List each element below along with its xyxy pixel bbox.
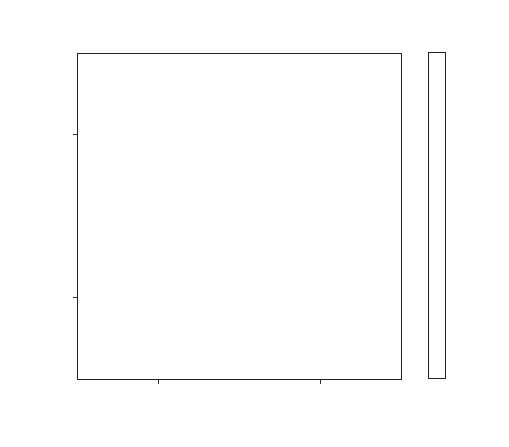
cell-mutated-wildtype xyxy=(78,217,240,380)
colorbar xyxy=(428,52,446,379)
cell-wildtype-mutated xyxy=(240,54,402,217)
y-tick-mark xyxy=(73,297,77,298)
y-tick-mark xyxy=(73,134,77,135)
cell-wildtype-wildtype xyxy=(78,54,240,217)
cell-mutated-mutated xyxy=(240,217,402,380)
confusion-matrix xyxy=(77,53,402,380)
x-tick-mark xyxy=(158,380,159,384)
x-tick-mark xyxy=(320,380,321,384)
